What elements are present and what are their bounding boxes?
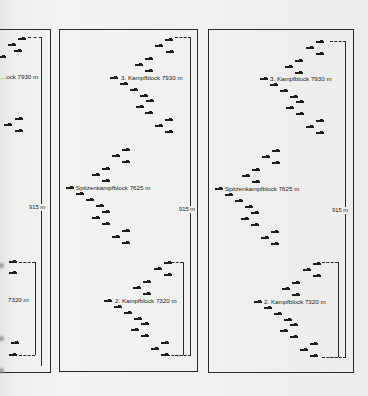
aircraft-icon [145, 57, 154, 60]
aircraft-icon [292, 281, 301, 284]
panel-c-block-bracket [338, 262, 339, 357]
aircraft-icon [161, 341, 170, 344]
aircraft-icon [122, 148, 131, 151]
aircraft-icon [140, 94, 149, 97]
aircraft-icon [290, 95, 299, 98]
aircraft-icon [260, 77, 269, 80]
aircraft-icon [122, 229, 131, 232]
aircraft-icon [235, 199, 244, 202]
panel-c-top-dash [330, 41, 346, 42]
aircraft-icon [102, 179, 111, 182]
aircraft-icon [285, 65, 294, 68]
panel-c-distance-line [345, 41, 346, 357]
panel-c-bottom-label: 2. Kampfblock 7320 m [264, 298, 326, 305]
aircraft-icon [272, 161, 281, 164]
aircraft-icon [112, 235, 121, 238]
aircraft-icon [120, 82, 129, 85]
aircraft-icon [131, 328, 140, 331]
panel-b-top-label: 3. Kampfblock 7930 m [121, 74, 183, 81]
aircraft-icon [92, 216, 101, 219]
aircraft-icon [66, 186, 75, 189]
aircraft-icon [251, 211, 260, 214]
aircraft-icon [136, 105, 145, 108]
aircraft-icon [0, 55, 7, 58]
aircraft-icon [155, 44, 164, 47]
aircraft-icon [112, 154, 121, 157]
aircraft-icon [271, 242, 280, 245]
aircraft-icon [9, 260, 18, 263]
aircraft-icon [15, 117, 24, 120]
panel-c-bracket-top-dash [322, 262, 338, 263]
aircraft-icon [124, 311, 133, 314]
aircraft-icon [161, 353, 170, 356]
aircraft-icon [141, 334, 150, 337]
aircraft-icon [96, 204, 105, 207]
aircraft-icon [271, 230, 280, 233]
aircraft-icon [215, 187, 224, 190]
aircraft-icon [143, 280, 152, 283]
aircraft-icon [313, 262, 322, 265]
aircraft-icon [316, 40, 325, 43]
aircraft-icon [133, 286, 142, 289]
aircraft-icon [274, 312, 283, 315]
aircraft-icon [310, 354, 319, 357]
aircraft-icon [290, 335, 299, 338]
aircraft-icon [135, 63, 144, 66]
aircraft-icon [270, 83, 279, 86]
aircraft-icon [8, 43, 17, 46]
panel-a-frame [0, 29, 51, 373]
panel-c-top-label: 3. Kampfblock 7930 m [270, 75, 332, 82]
aircraft-icon [9, 353, 18, 356]
aircraft-icon [316, 119, 325, 122]
aircraft-icon [316, 52, 325, 55]
aircraft-icon [300, 348, 309, 351]
panel-b-top-dash [175, 37, 191, 38]
aircraft-icon [295, 59, 304, 62]
aircraft-icon [290, 323, 299, 326]
aircraft-icon [313, 274, 322, 277]
aircraft-icon [18, 37, 27, 40]
aircraft-icon [251, 223, 260, 226]
aircraft-icon [130, 88, 139, 91]
aircraft-icon [154, 267, 163, 270]
aircraft-icon [254, 300, 263, 303]
aircraft-icon [134, 317, 143, 320]
aircraft-icon [104, 299, 113, 302]
aircraft-icon [296, 100, 305, 103]
panel-c-bracket-bottom-dash [322, 357, 338, 358]
aircraft-icon [166, 50, 175, 53]
aircraft-icon [292, 293, 301, 296]
panel-a-bracket-top-dash [19, 262, 35, 263]
aircraft-icon [303, 268, 312, 271]
aircraft-icon [92, 173, 101, 176]
aircraft-icon [306, 46, 315, 49]
panel-a-distance-line [41, 37, 42, 366]
aircraft-icon [282, 287, 291, 290]
panel-a-block-bracket [35, 262, 36, 355]
aircraft-icon [165, 38, 174, 41]
aircraft-icon [280, 89, 289, 92]
aircraft-icon [252, 180, 261, 183]
aircraft-icon [262, 155, 271, 158]
aircraft-icon [122, 241, 131, 244]
aircraft-icon [146, 99, 155, 102]
panel-b-middle-label: Spitzenkampfblock 7625 m [76, 184, 150, 191]
aircraft-icon [76, 192, 85, 195]
aircraft-icon [114, 305, 123, 308]
aircraft-icon [306, 125, 315, 128]
panel-b-distance-label: 915 m [178, 206, 196, 213]
aircraft-icon [102, 167, 111, 170]
aircraft-icon [245, 205, 254, 208]
aircraft-icon [86, 198, 95, 201]
panel-a-distance-label: 915 m [28, 204, 46, 211]
aircraft-icon [264, 306, 273, 309]
aircraft-icon [11, 341, 20, 344]
panel-a-bracket-bottom-dash [19, 355, 35, 356]
aircraft-icon [141, 322, 150, 325]
aircraft-icon [165, 130, 174, 133]
aircraft-icon [295, 71, 304, 74]
aircraft-icon [9, 271, 18, 274]
aircraft-icon [110, 76, 119, 79]
aircraft-icon [316, 131, 325, 134]
aircraft-icon [164, 261, 173, 264]
